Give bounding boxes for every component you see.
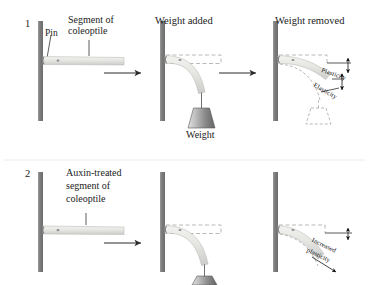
support-post	[273, 172, 278, 272]
pin-head	[292, 229, 295, 231]
row-number-1: 1	[25, 18, 30, 30]
panel-title-weight-removed: Weight removed	[275, 15, 344, 27]
coleoptile-bent	[165, 226, 208, 266]
panel-title-weight-added: Weight added	[155, 15, 213, 27]
weight-block	[192, 276, 217, 285]
support-post	[38, 21, 43, 121]
pin-head	[179, 59, 182, 61]
support-post	[160, 21, 165, 121]
pin-head	[292, 59, 295, 61]
support-post	[273, 21, 278, 121]
weight-block	[188, 108, 215, 128]
segment-label-line2: coleoptile	[68, 25, 107, 36]
weight-label: Weight	[186, 129, 215, 140]
auxin-label-line3: coleoptile	[66, 193, 105, 204]
segment-label-line1: Segment of	[68, 14, 114, 25]
pin-label: Pin	[45, 28, 58, 39]
pin-head	[179, 229, 182, 231]
coleoptile-plasticity-diagram: 1 Pin Segment of coleoptile Weight added…	[0, 0, 369, 285]
row-number-2: 2	[25, 168, 30, 180]
coleoptile-segment	[43, 57, 124, 66]
support-post	[160, 172, 165, 272]
support-post	[38, 172, 43, 272]
coleoptile-bent	[165, 56, 205, 94]
weight-outline-dashed	[306, 108, 331, 124]
coleoptile-segment	[43, 226, 124, 235]
pin-head	[57, 60, 60, 62]
auxin-label-line2: segment of	[66, 180, 110, 191]
pin-head	[57, 229, 60, 231]
auxin-label-line1: Auxin-treated	[66, 167, 122, 178]
